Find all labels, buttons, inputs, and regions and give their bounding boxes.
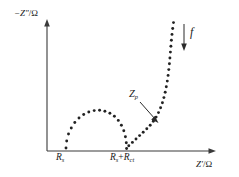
data-point [169, 51, 172, 54]
data-point [165, 85, 168, 88]
data-point [73, 121, 76, 124]
data-point [78, 117, 81, 120]
data-point [167, 68, 170, 71]
data-point [70, 127, 73, 130]
data-point [108, 112, 111, 115]
data-point [168, 57, 171, 60]
data-point [120, 124, 123, 127]
data-point [117, 119, 120, 122]
data-point [113, 115, 116, 118]
y-axis-label: −Z″/Ω [14, 9, 38, 18]
data-point [171, 33, 174, 36]
data-point [124, 135, 127, 138]
nyquist-plot: −Z″/Ω Z′/Ω Rs Rs+Rct Zp f [0, 0, 239, 177]
data-point [93, 109, 96, 112]
data-point [131, 141, 134, 144]
y-axis-label-unit: Ω [31, 8, 38, 18]
data-point [162, 96, 165, 99]
data-point [135, 138, 138, 141]
data-point [67, 133, 70, 136]
data-point [149, 124, 152, 127]
x-tick-rsrct-sub1: s [116, 156, 119, 163]
annotation-zp-sub: p [135, 93, 138, 100]
data-point [171, 27, 174, 30]
data-point [125, 141, 128, 144]
data-point [145, 127, 148, 130]
data-point [169, 45, 172, 48]
annotation-zp-main: Z [129, 88, 135, 99]
x-tick-label-rs-plus-rct: Rs+Rct [110, 153, 134, 163]
data-point [125, 147, 128, 150]
x-axis-label: Z′/Ω [196, 160, 212, 169]
data-point [98, 109, 101, 112]
y-axis [44, 19, 50, 151]
x-tick-rsrct-main1: R [110, 152, 116, 162]
data-markers [65, 21, 175, 150]
data-point [142, 131, 145, 134]
x-tick-rs-main: R [56, 152, 62, 162]
x-tick-label-rs: Rs [56, 153, 64, 163]
x-axis-label-unit: Ω [206, 159, 213, 169]
data-point [166, 80, 169, 83]
data-point [82, 113, 85, 116]
data-point [168, 62, 171, 65]
x-tick-rs-sub: s [62, 156, 65, 163]
annotation-frequency-label: f [190, 26, 193, 38]
frequency-arrow [181, 24, 187, 51]
x-tick-rsrct-sub2: ct [130, 156, 135, 163]
zp-pointer-arrow [140, 102, 159, 123]
data-point [164, 91, 167, 94]
data-point [167, 74, 170, 77]
data-point [157, 111, 160, 114]
data-point [170, 39, 173, 42]
annotation-zp: Zp [129, 89, 138, 100]
data-point [87, 111, 90, 114]
data-point [103, 110, 106, 113]
x-tick-rsrct-main2: R [124, 152, 130, 162]
data-point [65, 147, 68, 150]
plot-canvas [0, 0, 239, 177]
data-point [159, 106, 162, 109]
data-point [161, 101, 164, 104]
data-point [122, 129, 125, 132]
data-point [65, 140, 68, 143]
data-point [172, 21, 175, 24]
data-point [138, 134, 141, 137]
data-point [127, 144, 130, 147]
